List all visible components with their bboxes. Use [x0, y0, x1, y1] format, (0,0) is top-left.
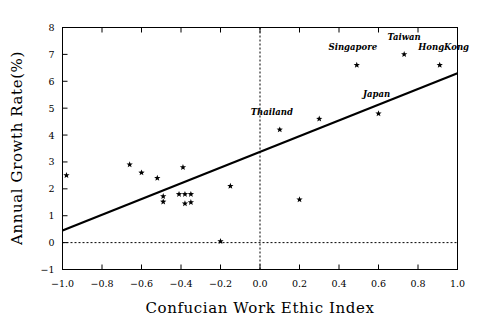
x-tick-label: 0.8 [410, 278, 425, 289]
x-tick-label: −0.4 [169, 278, 192, 289]
x-tick-label: −0.2 [209, 278, 232, 289]
x-tick-label: 1.0 [450, 278, 465, 289]
data-point [277, 126, 283, 132]
y-tick-label: −1 [40, 264, 54, 275]
x-tick-label: −0.8 [90, 278, 113, 289]
scatter-plot: ThailandSingaporeJapanTaiwanHongKong −1.… [0, 0, 487, 325]
y-tick-label: 3 [48, 156, 54, 167]
data-point [227, 183, 233, 189]
y-tick-label: 0 [48, 237, 54, 248]
point-label-singapore: Singapore [329, 42, 378, 52]
x-tick-label: −0.6 [130, 278, 153, 289]
data-point [188, 191, 194, 197]
data-point [354, 62, 360, 68]
y-tick-label: 7 [48, 49, 54, 60]
data-point [63, 172, 69, 178]
y-tick-label: 1 [48, 210, 54, 221]
y-axis-title: Annual Growth Rate(%) [8, 51, 26, 246]
data-points [63, 51, 443, 244]
x-tick-label: 0.0 [252, 278, 267, 289]
data-point [176, 191, 182, 197]
data-point [401, 51, 407, 57]
data-point [138, 169, 144, 175]
chart-figure: ThailandSingaporeJapanTaiwanHongKong −1.… [0, 0, 487, 325]
x-tick-label: −1.0 [51, 278, 74, 289]
data-point [182, 200, 188, 206]
data-point [296, 196, 302, 202]
data-point [180, 164, 186, 170]
point-label-taiwan: Taiwan [388, 32, 421, 42]
data-point [160, 193, 166, 199]
point-annotations: ThailandSingaporeJapanTaiwanHongKong [251, 32, 469, 117]
data-point [437, 62, 443, 68]
x-tick-label: 0.2 [292, 278, 307, 289]
data-point [154, 175, 160, 181]
x-tick-label: 0.6 [371, 278, 386, 289]
x-tick-label: 0.4 [331, 278, 346, 289]
y-tick-label: 5 [48, 103, 54, 114]
point-label-japan: Japan [361, 89, 390, 99]
point-label-hongkong: HongKong [417, 42, 469, 52]
data-point [182, 191, 188, 197]
x-axis-title: Confucian Work Ethic Index [145, 299, 374, 317]
y-tick-label: 6 [48, 76, 54, 87]
data-point [316, 116, 322, 122]
y-tick-label: 4 [48, 130, 54, 141]
y-tick-label: 2 [48, 183, 54, 194]
y-tick-label: 8 [48, 22, 54, 33]
data-point [375, 110, 381, 116]
y-tick-labels: −1012345678 [40, 22, 54, 275]
point-label-thailand: Thailand [251, 107, 293, 117]
x-tick-labels: −1.0−0.8−0.6−0.4−0.20.00.20.40.60.81.0 [51, 278, 465, 289]
data-point [127, 161, 133, 167]
reference-lines [63, 28, 458, 270]
data-point [188, 199, 194, 205]
data-point [160, 198, 166, 204]
